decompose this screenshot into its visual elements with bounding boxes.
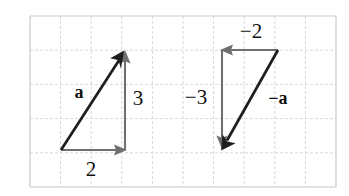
vector-a-label: a: [75, 83, 84, 101]
vertical-component-label-neg-a: −3: [185, 87, 207, 108]
vector-a-diagram: [61, 50, 131, 155]
vector-a-arrowhead: [110, 51, 124, 69]
horizontal-component-label-neg-a: −2: [240, 21, 262, 42]
vector-figure: a 2 3 −a −2 −3: [0, 0, 349, 196]
vertical-component-label-a: 3: [133, 88, 144, 109]
figure-canvas: [0, 0, 349, 196]
vector-a-shaft: [61, 60, 120, 151]
vector-neg-a-label: −a: [268, 89, 287, 107]
horizontal-component-label-a: 2: [86, 159, 97, 180]
